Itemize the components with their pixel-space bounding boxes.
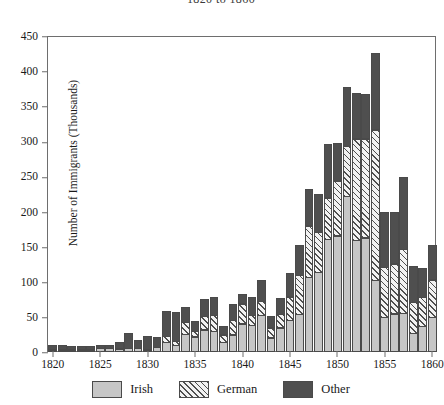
y-tick-label: 200	[21, 207, 42, 219]
bar-1838	[219, 326, 228, 351]
x-tick-label: 1825	[89, 359, 112, 371]
bar-segment-irish	[371, 280, 380, 352]
bar-segment-german	[238, 304, 247, 324]
x-tick-1825: 1825	[89, 351, 112, 371]
bar-1830	[143, 336, 152, 351]
bar-segment-other	[162, 311, 171, 337]
bar-segment-german	[418, 297, 427, 326]
bar-1829	[134, 340, 143, 351]
bar-segment-german	[257, 301, 266, 316]
bar-1828	[124, 333, 133, 351]
bar-segment-irish	[267, 338, 276, 352]
bar-segment-german	[380, 267, 389, 318]
x-tick-label: 1850	[326, 359, 349, 371]
x-tick-mark	[147, 351, 148, 357]
y-tick-label: 100	[21, 277, 42, 289]
bar-1831	[153, 337, 162, 351]
bar-segment-irish	[295, 314, 304, 351]
bar-1851	[343, 87, 352, 351]
german-swatch	[179, 381, 209, 398]
bar-segment-irish	[418, 326, 427, 351]
x-tick-mark	[432, 351, 433, 357]
bar-1837	[210, 297, 219, 351]
bar-1834	[181, 307, 190, 351]
other-swatch	[283, 381, 313, 398]
bar-segment-german	[352, 139, 361, 241]
x-tick-1830: 1830	[136, 351, 159, 371]
bar-segment-german	[409, 302, 418, 334]
bar-segment-other	[295, 245, 304, 276]
bar-segment-other	[153, 337, 162, 348]
bar-1858	[409, 266, 418, 351]
bar-segment-german	[333, 181, 342, 236]
bar-segment-german	[267, 328, 276, 339]
bar-1848	[314, 194, 323, 351]
bar-segment-irish	[409, 333, 418, 351]
bar-1854	[371, 53, 380, 351]
bar-1822	[67, 346, 76, 351]
bar-1855	[380, 212, 389, 351]
bar-segment-german	[276, 314, 285, 328]
bar-1860	[428, 245, 437, 351]
y-tick-mark	[42, 212, 48, 213]
x-tick-mark	[242, 351, 243, 357]
bar-segment-irish	[257, 315, 266, 352]
bar-segment-other	[124, 333, 133, 348]
bar-1823	[77, 346, 86, 351]
bar-segment-other	[428, 245, 437, 280]
y-tick-label: 150	[21, 242, 42, 254]
bar-1845	[286, 273, 295, 351]
bar-segment-other	[276, 298, 285, 315]
bar-1842	[257, 280, 266, 351]
bar-segment-irish	[352, 240, 361, 352]
bar-segment-other	[371, 53, 380, 130]
bar-1856	[390, 212, 399, 351]
y-tick-400: 400	[21, 66, 48, 78]
bar-segment-german	[200, 316, 209, 330]
bar-segment-irish	[380, 317, 389, 351]
y-tick-mark	[42, 177, 48, 178]
bar-segment-irish	[286, 320, 295, 352]
y-tick-300: 300	[21, 137, 48, 149]
x-tick-1850: 1850	[326, 351, 349, 371]
bar-segment-german	[229, 320, 238, 335]
x-tick-label: 1830	[136, 359, 159, 371]
x-tick-label: 1855	[373, 359, 396, 371]
bar-1833	[172, 312, 181, 351]
bar-segment-irish	[172, 345, 181, 351]
bar-segment-other	[305, 189, 314, 227]
bar-segment-irish	[390, 314, 399, 352]
bar-segment-german	[428, 280, 437, 318]
bar-segment-other	[200, 299, 209, 317]
bar-segment-other	[210, 297, 219, 315]
bar-segment-other	[229, 304, 238, 320]
bar-segment-other	[333, 143, 342, 182]
bar-segment-irish	[238, 324, 247, 352]
bar-segment-german	[305, 226, 314, 278]
x-tick-1855: 1855	[373, 351, 396, 371]
x-tick-mark	[337, 351, 338, 357]
bar-segment-other	[361, 94, 370, 139]
bar-segment-german	[181, 322, 190, 335]
bar-segment-irish	[229, 335, 238, 352]
y-tick-mark	[42, 107, 48, 108]
x-tick-1835: 1835	[184, 351, 207, 371]
bar-1827	[115, 342, 124, 351]
bar-1852	[352, 93, 361, 351]
y-tick-mark	[42, 142, 48, 143]
y-tick-mark	[42, 247, 48, 248]
bar-segment-irish	[324, 239, 333, 351]
bar-segment-german	[399, 249, 408, 314]
bar-segment-irish	[314, 272, 323, 351]
bar-segment-german	[361, 139, 370, 239]
bar-segment-other	[257, 280, 266, 302]
bar-segment-irish	[162, 342, 171, 351]
x-tick-label: 1840	[231, 359, 254, 371]
bar-1857	[399, 177, 408, 351]
y-tick-mark	[42, 72, 48, 73]
y-tick-50: 50	[27, 312, 49, 324]
x-tick-mark	[289, 351, 290, 357]
bar-1843	[267, 316, 276, 351]
bar-segment-other	[418, 268, 427, 298]
legend-item-irish: Irish	[92, 381, 153, 398]
